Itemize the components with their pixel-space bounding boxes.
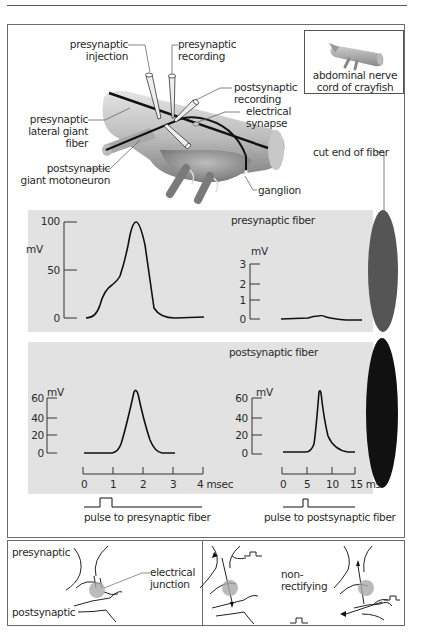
junction-schematics — [0, 0, 430, 644]
junction-left — [89, 582, 105, 598]
